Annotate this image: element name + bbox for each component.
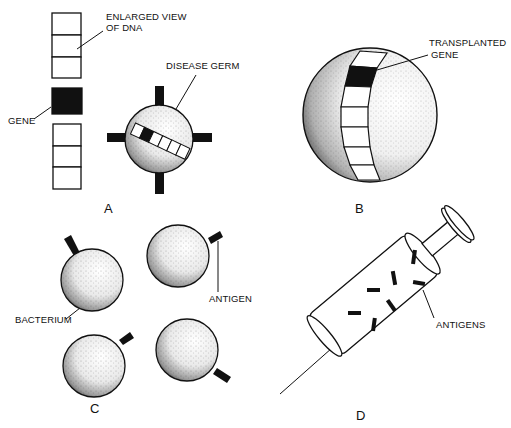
panel-a: ENLARGED VIEW OF DNA GENE DISEASE GERM A	[8, 11, 240, 216]
gene-block	[52, 88, 82, 114]
dna-strip	[52, 13, 82, 189]
bacterium-3	[63, 332, 134, 397]
panel-letter-b: B	[355, 201, 364, 216]
bacterium-4	[156, 319, 231, 383]
label-transplanted: TRANSPLANTED	[429, 37, 506, 48]
label-bacterium: BACTERIUM	[15, 314, 72, 325]
panel-d	[280, 200, 480, 394]
syringe-barrel	[303, 200, 480, 360]
label-antigen: ANTIGEN	[209, 293, 252, 304]
label-antigens: ANTIGENS	[436, 319, 485, 330]
vaccine-diagram: ENLARGED VIEW OF DNA GENE DISEASE GERM A	[0, 0, 511, 428]
label-enlarged-dna-2: OF DNA	[106, 22, 143, 33]
label-gene: GENE	[8, 115, 35, 126]
label-disease-germ: DISEASE GERM	[166, 60, 240, 71]
bacterium-2	[147, 225, 223, 287]
disease-germ	[107, 86, 212, 194]
label-transplanted-2: GENE	[431, 49, 458, 60]
bacterium-1	[61, 235, 123, 311]
panel-letter-a: A	[104, 201, 113, 216]
panel-letter-d: D	[356, 408, 365, 423]
panel-c: ANTIGEN BACTERIUM C	[15, 225, 252, 416]
panel-b: TRANSPLANTED GENE B	[303, 37, 506, 216]
syringe-needle	[280, 348, 332, 394]
label-enlarged-dna: ENLARGED VIEW	[106, 11, 186, 22]
panel-letter-c: C	[90, 401, 99, 416]
